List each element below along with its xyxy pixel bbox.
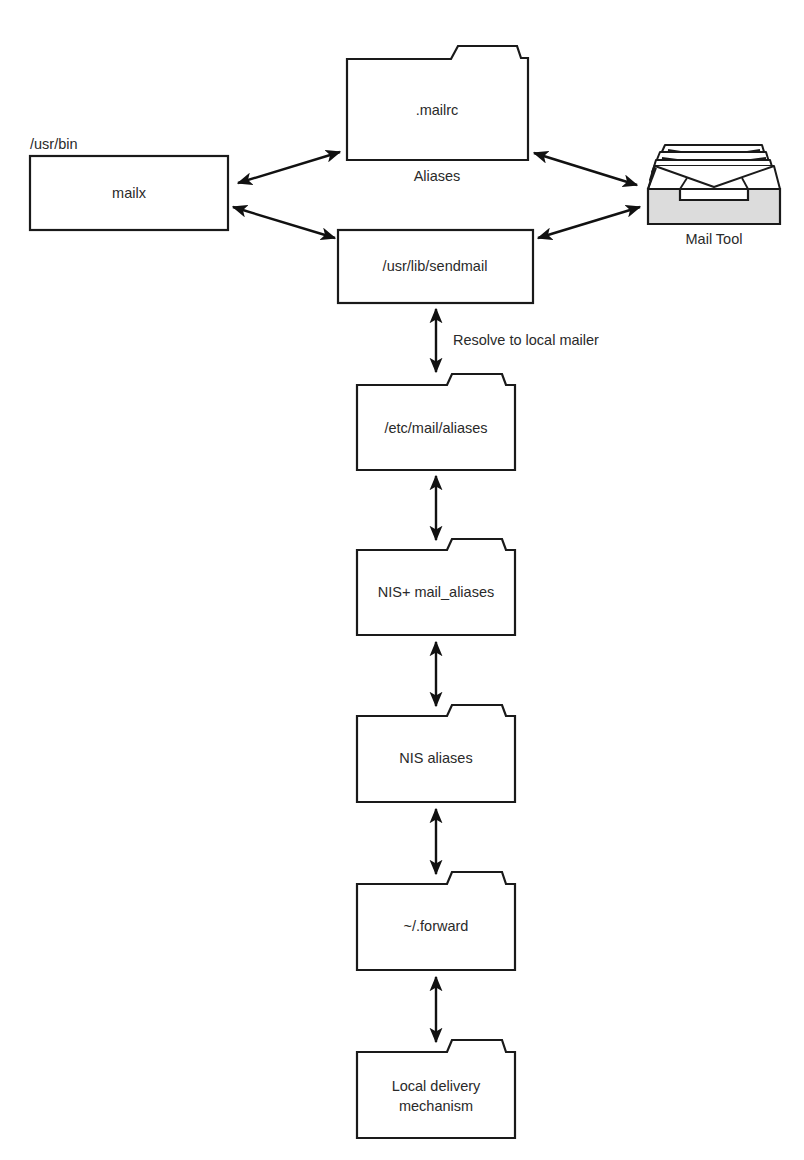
mailx-label: mailx bbox=[112, 185, 147, 201]
forward-node: ~/.forward bbox=[357, 872, 515, 970]
local-delivery-node: Local delivery mechanism bbox=[357, 1040, 515, 1138]
aliases-caption: Aliases bbox=[414, 168, 461, 184]
resolve-edge-label: Resolve to local mailer bbox=[453, 332, 599, 348]
forward-label: ~/.forward bbox=[404, 918, 469, 934]
mail-tray-icon bbox=[648, 145, 780, 224]
arrow-sendmail-mailtool bbox=[538, 207, 640, 238]
sendmail-node: /usr/lib/sendmail bbox=[338, 230, 533, 303]
mailrc-node: .mailrc Aliases bbox=[347, 46, 528, 184]
arrow-mailx-sendmail bbox=[233, 207, 335, 238]
mailtool-label: Mail Tool bbox=[686, 231, 743, 247]
local-delivery-label-line1: Local delivery bbox=[392, 1078, 481, 1094]
nisplus-node: NIS+ mail_aliases bbox=[357, 539, 515, 635]
mailx-node: /usr/bin mailx bbox=[30, 136, 228, 230]
arrow-mailrc-mailtool bbox=[534, 153, 637, 185]
usr-bin-label: /usr/bin bbox=[30, 136, 78, 152]
etc-aliases-label: /etc/mail/aliases bbox=[384, 420, 487, 436]
mailtool-node: Mail Tool bbox=[648, 145, 780, 247]
arrow-mailx-mailrc bbox=[238, 152, 340, 183]
mailrc-label: .mailrc bbox=[416, 102, 459, 118]
etc-aliases-node: /etc/mail/aliases bbox=[357, 374, 515, 470]
nis-label: NIS aliases bbox=[399, 750, 472, 766]
sendmail-label: /usr/lib/sendmail bbox=[383, 258, 488, 274]
local-delivery-label-line2: mechanism bbox=[399, 1098, 473, 1114]
nis-node: NIS aliases bbox=[357, 705, 515, 802]
diagram-canvas: /usr/bin mailx .mailrc Aliases Mail Tool bbox=[0, 0, 804, 1160]
nisplus-label: NIS+ mail_aliases bbox=[378, 584, 494, 600]
